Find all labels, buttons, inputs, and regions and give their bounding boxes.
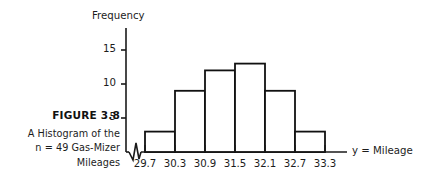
histogram-bars bbox=[145, 64, 325, 152]
axis-break-zigzag-icon bbox=[129, 143, 141, 160]
histogram-bar bbox=[265, 91, 295, 152]
histogram-bar bbox=[205, 70, 235, 152]
histogram-bar bbox=[175, 91, 205, 152]
histogram-bar bbox=[295, 132, 325, 152]
histogram-svg bbox=[0, 0, 442, 188]
histogram-bar bbox=[145, 132, 175, 152]
histogram-bar bbox=[235, 64, 265, 152]
histogram-plot: Frequency y = Mileage 5 10 15 29.7 30.3 … bbox=[0, 0, 442, 188]
figure-container: FIGURE 3.8 A Histogram of the n = 49 Gas… bbox=[0, 0, 442, 188]
